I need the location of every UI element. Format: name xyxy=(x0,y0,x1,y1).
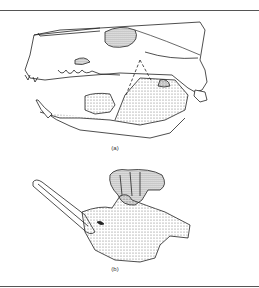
panel-label-a: (a) xyxy=(105,145,125,151)
top-rule xyxy=(0,10,259,11)
panel-label-b: (b) xyxy=(105,266,125,272)
skull-drawing xyxy=(0,12,259,157)
bottom-rule xyxy=(0,286,259,287)
mandible-drawing xyxy=(0,160,259,270)
